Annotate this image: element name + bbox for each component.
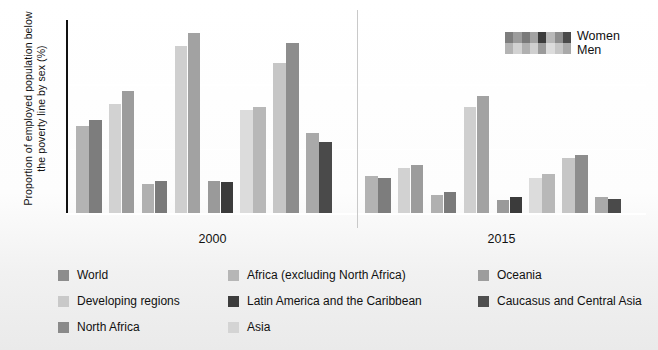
bar-2015-developing-regions-women [411, 165, 424, 213]
series-label-men: Men [577, 44, 620, 58]
men-swatch-latin-america-and-the-caribbean [538, 43, 546, 54]
bar-2015-world-men [365, 176, 378, 213]
bar-2015-latin-america-and-the-caribbean-women [510, 197, 523, 213]
legend-item-asia[interactable]: Asia [228, 320, 478, 334]
series-legend-labels: Women Men [577, 30, 620, 57]
bar-2000-developing-regions-women [122, 91, 135, 213]
legend-color-chip [228, 270, 239, 281]
bar-2000-caucasus-and-central-asia-women [319, 142, 332, 213]
bar-2015-developing-regions-men [398, 168, 411, 213]
legend-item-label: Africa (excluding North Africa) [247, 268, 406, 282]
series-legend: Women Men [505, 30, 620, 57]
men-swatch-oceania [555, 43, 563, 54]
legend-item-north-africa[interactable]: North Africa [58, 320, 228, 334]
bar-chart: Proportion of employed population below … [0, 0, 658, 350]
women-swatch-world [505, 32, 513, 43]
bar-2000-africa-excluding-north-africa-men [175, 46, 188, 213]
men-swatch-asia [546, 43, 554, 54]
bar-2015-latin-america-and-the-caribbean-men [497, 200, 510, 213]
legend-item-africa-excluding-north-africa[interactable]: Africa (excluding North Africa) [228, 268, 478, 282]
x-group-label-2015: 2015 [357, 232, 646, 246]
legend-item-label: Caucasus and Central Asia [497, 294, 642, 308]
legend-item-label: World [77, 268, 108, 282]
men-swatch-africa-excluding-north-africa [530, 43, 538, 54]
bar-2000-latin-america-and-the-caribbean-women [221, 182, 234, 213]
bar-2015-asia-men [529, 178, 542, 213]
legend-item-label: Latin America and the Caribbean [247, 294, 422, 308]
men-swatch-row [505, 43, 571, 54]
legend-item-latin-america-and-the-caribbean[interactable]: Latin America and the Caribbean [228, 294, 478, 308]
legend-color-chip [228, 296, 239, 307]
legend-color-chip [478, 270, 489, 281]
bar-2000-world-women [89, 120, 102, 213]
men-swatch-world [505, 43, 513, 54]
legend-item-world[interactable]: World [58, 268, 228, 282]
women-swatch-asia [546, 32, 554, 43]
women-swatch-oceania [555, 32, 563, 43]
women-swatch-row [505, 32, 571, 43]
legend-item-caucasus-and-central-asia[interactable]: Caucasus and Central Asia [478, 294, 650, 308]
x-group-label-2000: 2000 [68, 232, 357, 246]
women-swatch-latin-america-and-the-caribbean [538, 32, 546, 43]
bar-2015-caucasus-and-central-asia-men [595, 197, 608, 213]
legend-item-label: Asia [247, 320, 270, 334]
women-swatch-developing-regions [513, 32, 521, 43]
bar-2015-north-africa-men [431, 195, 444, 213]
men-swatch-north-africa [522, 43, 530, 54]
legend-color-chip [478, 296, 489, 307]
bar-2000-latin-america-and-the-caribbean-men [208, 181, 221, 213]
legend-item-developing-regions[interactable]: Developing regions [58, 294, 228, 308]
legend-color-chip [58, 296, 69, 307]
bar-2000-oceania-women [286, 43, 299, 213]
legend-item-label: Oceania [497, 268, 542, 282]
bar-2015-africa-excluding-north-africa-women [477, 96, 490, 213]
bar-2000-asia-men [240, 110, 253, 213]
bar-2015-oceania-men [562, 158, 575, 213]
series-label-women: Women [577, 30, 620, 44]
series-legend-swatches [505, 32, 571, 54]
bar-2000-world-men [76, 126, 89, 213]
legend-color-chip [228, 322, 239, 333]
bar-2000-north-africa-men [142, 184, 155, 213]
bar-2015-world-women [378, 178, 391, 213]
legend-color-chip [58, 322, 69, 333]
men-swatch-caucasus-and-central-asia [563, 43, 571, 54]
men-swatch-developing-regions [513, 43, 521, 54]
legend-item-oceania[interactable]: Oceania [478, 268, 650, 282]
legend-item-label: Developing regions [77, 294, 180, 308]
bar-2015-north-africa-women [444, 192, 457, 213]
group-divider [357, 10, 358, 228]
bar-2000-north-africa-women [155, 181, 168, 213]
bar-2000-asia-women [253, 107, 266, 213]
women-swatch-caucasus-and-central-asia [563, 32, 571, 43]
legend-color-chip [58, 270, 69, 281]
bar-2000-developing-regions-men [109, 104, 122, 213]
women-swatch-north-africa [522, 32, 530, 43]
bar-2015-asia-women [542, 174, 555, 213]
bar-2015-africa-excluding-north-africa-men [464, 107, 477, 213]
bar-2000-africa-excluding-north-africa-women [188, 33, 201, 213]
legend-item-label: North Africa [77, 320, 140, 334]
bar-2000-oceania-men [273, 63, 286, 213]
y-axis-title: Proportion of employed population below … [22, 4, 47, 214]
women-swatch-africa-excluding-north-africa [530, 32, 538, 43]
bar-2015-oceania-women [575, 155, 588, 213]
bar-2000-caucasus-and-central-asia-men [306, 133, 319, 213]
category-legend: WorldAfrica (excluding North Africa)Ocea… [58, 262, 650, 340]
bar-2015-caucasus-and-central-asia-women [608, 199, 621, 213]
